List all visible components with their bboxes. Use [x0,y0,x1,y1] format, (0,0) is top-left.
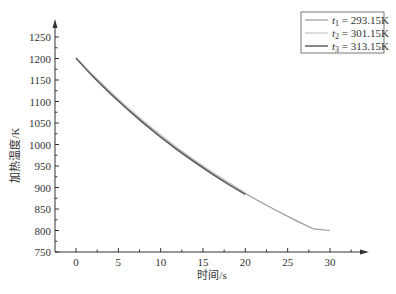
x-tick-label: 30 [325,256,337,268]
legend-label-3: t3 = 313.15K [332,40,389,54]
y-tick-label: 1000 [29,139,52,151]
x-tick-label: 10 [155,256,167,268]
legend: t1 = 293.15Kt2 = 301.15Kt3 = 313.15K [301,12,389,54]
legend-label-1: t1 = 293.15K [332,14,389,28]
x-axis-title: 时间/s [197,269,226,281]
x-tick-label: 15 [198,256,210,268]
series-line-1 [76,59,330,231]
x-tick-label: 25 [282,256,294,268]
series-line-3 [76,58,245,194]
y-tick-label: 1100 [29,96,51,108]
y-axis-arrow-icon [53,19,58,28]
y-tick-label: 1250 [29,31,52,43]
series-line-2 [76,58,245,193]
y-tick-label: 850 [35,203,52,215]
series-group [76,58,330,231]
x-tick-label: 20 [240,256,252,268]
chart-canvas: 7508008509009501000105011001150120012500… [0,0,396,294]
x-axis-arrow-icon [360,250,369,255]
y-tick-label: 800 [35,225,52,237]
y-tick-label: 900 [35,182,52,194]
y-tick-label: 750 [35,246,52,258]
axes: 7508008509009501000105011001150120012500… [29,19,369,268]
y-tick-label: 1050 [29,117,52,129]
y-tick-label: 1200 [29,53,52,65]
legend-label-2: t2 = 301.15K [332,27,389,41]
y-tick-label: 950 [35,160,52,172]
y-axis-title: 加热温度/K [8,127,21,182]
x-tick-label: 0 [73,256,79,268]
x-tick-label: 5 [116,256,122,268]
y-tick-label: 1150 [29,74,51,86]
